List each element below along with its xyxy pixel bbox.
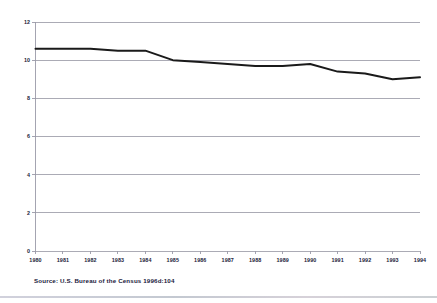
line-chart-plot: 024681012 198019811982198319841985198619… bbox=[0, 0, 437, 303]
y-tick-marks bbox=[32, 22, 35, 251]
x-tick-label-1986: 1986 bbox=[194, 257, 206, 263]
y-tick-label-0: 0 bbox=[27, 248, 30, 254]
data-series-line bbox=[36, 49, 421, 80]
x-tick-label-1984: 1984 bbox=[139, 257, 151, 263]
series-line-rate bbox=[36, 49, 421, 80]
x-tick-label-1992: 1992 bbox=[359, 257, 371, 263]
x-tick-label-1988: 1988 bbox=[249, 257, 261, 263]
x-tick-label-1982: 1982 bbox=[84, 257, 96, 263]
y-tick-labels: 024681012 bbox=[24, 19, 30, 254]
x-tick-label-1980: 1980 bbox=[29, 257, 41, 263]
x-tick-label-1983: 1983 bbox=[112, 257, 124, 263]
x-tick-label-1994: 1994 bbox=[414, 257, 426, 263]
y-tick-label-2: 2 bbox=[27, 210, 30, 216]
bottom-divider bbox=[0, 296, 437, 298]
x-tick-label-1990: 1990 bbox=[304, 257, 316, 263]
y-tick-label-8: 8 bbox=[27, 95, 30, 101]
x-tick-label-1981: 1981 bbox=[57, 257, 69, 263]
x-tick-label-1985: 1985 bbox=[167, 257, 179, 263]
x-tick-label-1993: 1993 bbox=[386, 257, 398, 263]
y-tick-label-12: 12 bbox=[24, 19, 30, 25]
x-tick-label-1991: 1991 bbox=[331, 257, 343, 263]
source-caption: Source: U.S. Bureau of the Census 1996d:… bbox=[34, 277, 175, 284]
x-tick-labels: 1980198119821983198419851986198719881989… bbox=[29, 257, 426, 263]
chart-figure: 024681012 198019811982198319841985198619… bbox=[0, 0, 437, 303]
y-tick-label-4: 4 bbox=[27, 172, 30, 178]
y-tick-label-10: 10 bbox=[24, 57, 30, 63]
x-tick-marks bbox=[36, 251, 421, 254]
x-tick-label-1987: 1987 bbox=[222, 257, 234, 263]
gridline-group bbox=[36, 22, 421, 251]
x-tick-label-1989: 1989 bbox=[276, 257, 288, 263]
y-tick-label-6: 6 bbox=[27, 133, 30, 139]
